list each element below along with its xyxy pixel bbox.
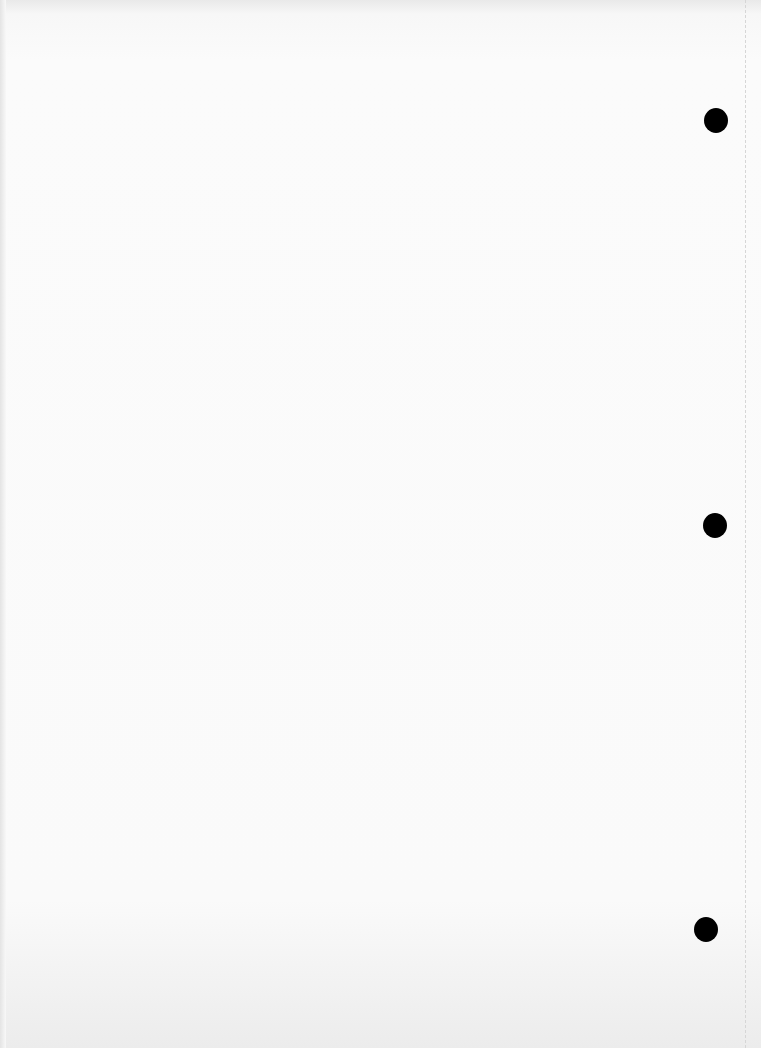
punch-hole-middle	[703, 513, 727, 538]
scanned-page	[0, 0, 761, 1048]
punch-hole-bottom	[694, 917, 718, 942]
page-edge-line	[745, 0, 746, 1048]
punch-hole-top	[704, 108, 728, 133]
page-edge-shadow	[0, 0, 6, 1048]
